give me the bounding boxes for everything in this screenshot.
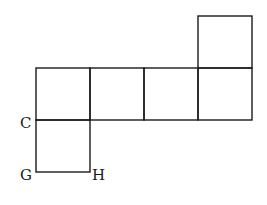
- cube-net-diagram: C G H: [0, 0, 267, 205]
- square-row-3: [144, 68, 198, 120]
- square-row-4: [198, 68, 252, 120]
- square-row-2: [90, 68, 144, 120]
- square-row-1: [36, 68, 90, 120]
- label-c: C: [20, 114, 31, 132]
- label-h: H: [92, 166, 105, 184]
- label-g: G: [20, 166, 32, 184]
- square-bottom-left: [36, 120, 90, 172]
- square-top-right: [198, 16, 252, 68]
